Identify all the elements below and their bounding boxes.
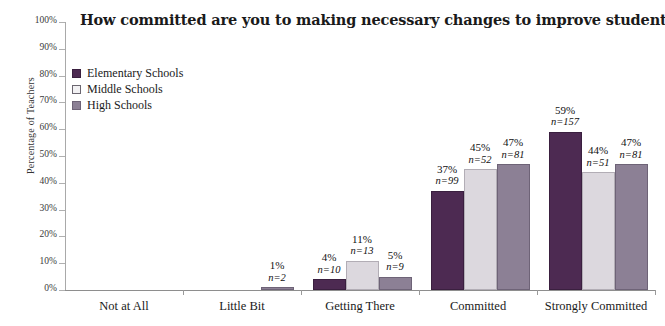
y-tick-label: 40% [40, 176, 57, 186]
bar [464, 169, 497, 290]
y-tick-label: 10% [40, 256, 57, 266]
legend-item: High Schools [72, 98, 183, 113]
x-axis-category-label: Not at All [65, 299, 183, 314]
bar-value-label: 47%n=81 [605, 136, 658, 161]
bar-value-label: 47%n=81 [487, 136, 540, 161]
y-axis-line [65, 22, 66, 290]
y-tick-mark [59, 290, 65, 291]
bar [615, 164, 648, 290]
legend-swatch [72, 69, 81, 78]
y-tick-mark [59, 102, 65, 103]
x-tick-mark [419, 290, 420, 295]
bar [549, 132, 582, 290]
bar-value-label: 11%n=13 [336, 233, 389, 258]
y-tick-mark [59, 49, 65, 50]
y-tick-label: 20% [40, 229, 57, 239]
y-tick-mark [59, 22, 65, 23]
bar-chart: How committed are you to making necessar… [0, 0, 665, 326]
x-tick-mark [537, 290, 538, 295]
y-tick-label: 50% [40, 149, 57, 159]
x-tick-mark [655, 290, 656, 295]
bar [379, 277, 412, 290]
y-tick-label: 60% [40, 122, 57, 132]
y-tick-mark [59, 263, 65, 264]
bar-value-label: 1%n=2 [251, 259, 304, 284]
legend-label: High Schools [87, 98, 152, 113]
y-tick-label: 70% [40, 95, 57, 105]
legend-item: Elementary Schools [72, 66, 183, 81]
y-tick-mark [59, 129, 65, 130]
x-axis-line [65, 290, 655, 291]
y-tick-mark [59, 76, 65, 77]
bar [313, 279, 346, 290]
y-tick-label: 90% [40, 42, 57, 52]
y-tick-label: 100% [35, 15, 57, 25]
bar-value-label: 45%n=52 [454, 141, 507, 166]
y-tick-label: 80% [40, 69, 57, 79]
x-tick-mark [301, 290, 302, 295]
x-axis-category-label: Committed [419, 299, 537, 314]
legend-label: Elementary Schools [87, 66, 183, 81]
legend-swatch [72, 101, 81, 110]
bar [346, 261, 379, 290]
y-tick-mark [59, 156, 65, 157]
plot-area: 0%10%20%30%40%50%60%70%80%90%100% 1%n=24… [65, 22, 655, 290]
x-axis-category-label: Little Bit [183, 299, 301, 314]
y-tick-mark [59, 183, 65, 184]
y-tick-mark [59, 236, 65, 237]
x-axis-category-label: Getting There [301, 299, 419, 314]
bar [582, 172, 615, 290]
x-tick-mark [183, 290, 184, 295]
bar-value-label: 59%n=157 [539, 104, 592, 129]
y-axis-title: Percentage of Teachers [25, 36, 36, 216]
y-tick-label: 30% [40, 203, 57, 213]
legend-label: Middle Schools [87, 82, 163, 97]
chart-legend: Elementary SchoolsMiddle SchoolsHigh Sch… [72, 66, 183, 114]
y-tick-mark [59, 210, 65, 211]
bar [497, 164, 530, 290]
bar [431, 191, 464, 290]
y-tick-label: 0% [44, 283, 57, 293]
x-axis-category-label: Strongly Committed [537, 299, 655, 314]
legend-item: Middle Schools [72, 82, 183, 97]
bar [261, 287, 294, 290]
legend-swatch [72, 85, 81, 94]
